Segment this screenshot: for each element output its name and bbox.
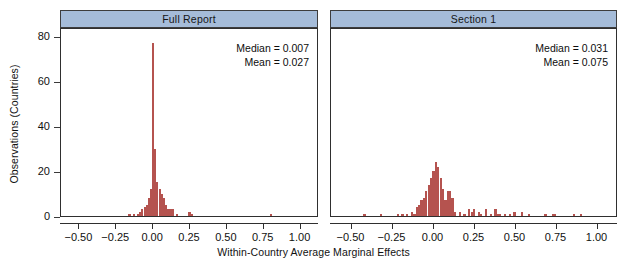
histogram-bar xyxy=(401,214,403,216)
histogram-bar xyxy=(504,214,506,216)
plot-box: Median = 0.031Mean = 0.075 xyxy=(330,28,617,217)
histogram-bar xyxy=(191,214,193,216)
histogram-bar xyxy=(499,214,501,216)
histogram-bar xyxy=(509,214,511,216)
plot-box: Median = 0.007Mean = 0.027 xyxy=(60,28,318,217)
histogram-bar xyxy=(480,214,482,216)
histogram-bar xyxy=(363,214,365,216)
x-axis-tick-label: 0.00 xyxy=(141,231,162,243)
x-axis-tick-label: −0.25 xyxy=(378,231,406,243)
x-axis-tick-mark xyxy=(433,223,434,229)
histogram-bar xyxy=(397,214,399,216)
x-axis-tick-mark xyxy=(263,223,264,229)
histogram-bar xyxy=(459,212,461,217)
x-axis-tick-mark xyxy=(189,223,190,229)
y-axis-tick-label: 80 xyxy=(24,30,50,42)
x-axis-tick-label: 0.25 xyxy=(178,231,199,243)
stat-median: Median = 0.031 xyxy=(535,41,608,55)
x-axis-tick-mark xyxy=(474,223,475,229)
panel-stats-annotation: Median = 0.007Mean = 0.027 xyxy=(236,41,309,69)
x-axis-tick-label: −0.25 xyxy=(101,231,129,243)
x-axis-tick-mark xyxy=(351,223,352,229)
y-axis-tick-label: 60 xyxy=(24,75,50,87)
histogram-bar xyxy=(128,214,130,216)
x-axis-tick-mark xyxy=(115,223,116,229)
y-axis-tick-label: 0 xyxy=(24,210,50,222)
y-axis-tick-mark xyxy=(54,217,60,218)
panel-title-strip: Section 1 xyxy=(330,10,617,28)
x-axis-tick-label: 0.25 xyxy=(463,231,484,243)
panel-title-label: Section 1 xyxy=(451,13,497,25)
y-axis-tick-label: 20 xyxy=(24,165,50,177)
x-axis-tick-mark xyxy=(556,223,557,229)
histogram-bar xyxy=(580,214,582,216)
histogram-bar xyxy=(528,214,530,216)
histogram-bar xyxy=(513,212,515,217)
x-axis-tick-mark xyxy=(515,223,516,229)
histogram-bar xyxy=(490,214,492,216)
histogram-bar xyxy=(176,214,178,216)
x-axis-tick-label: 1.00 xyxy=(586,231,607,243)
x-axis-tick-label: 0.75 xyxy=(252,231,273,243)
y-axis-tick-label: 40 xyxy=(24,120,50,132)
panel-title-strip: Full Report xyxy=(60,10,318,28)
x-axis-tick-label: 1.00 xyxy=(289,231,310,243)
histogram-bar xyxy=(171,209,173,216)
histogram-bar xyxy=(485,209,487,216)
histogram-bar xyxy=(454,212,456,217)
x-axis-tick-label: 0.50 xyxy=(504,231,525,243)
stat-median: Median = 0.007 xyxy=(236,41,309,55)
histogram-bar xyxy=(380,214,382,216)
histogram-bar xyxy=(554,214,556,216)
histogram-bar xyxy=(270,214,272,216)
histogram-bar xyxy=(544,214,546,216)
y-axis-title: Observations (Countries) xyxy=(8,24,20,224)
stat-mean: Mean = 0.075 xyxy=(535,55,608,69)
histogram-bar xyxy=(521,212,523,217)
x-axis-tick-mark xyxy=(78,223,79,229)
x-axis-tick-mark xyxy=(152,223,153,229)
histogram-bar xyxy=(406,214,408,216)
histogram-bar xyxy=(473,209,475,216)
panel-stats-annotation: Median = 0.031Mean = 0.075 xyxy=(535,41,608,69)
histogram-bar xyxy=(573,214,575,216)
stat-mean: Mean = 0.027 xyxy=(236,55,309,69)
panel-title-label: Full Report xyxy=(162,13,216,25)
x-axis-title: Within-Country Average Marginal Effects xyxy=(0,246,627,258)
x-axis-tick-label: −0.50 xyxy=(65,231,93,243)
x-axis-tick-label: 0.75 xyxy=(545,231,566,243)
x-axis-tick-mark xyxy=(597,223,598,229)
x-axis-tick-mark xyxy=(226,223,227,229)
x-axis-tick-mark xyxy=(392,223,393,229)
histogram-bar xyxy=(463,214,465,216)
y-axis: 020406080 xyxy=(22,0,60,273)
x-axis-tick-label: 0.50 xyxy=(215,231,236,243)
histogram-bar xyxy=(133,214,135,216)
x-axis-tick-label: 0.00 xyxy=(422,231,443,243)
histogram-figure: Observations (Countries) 020406080 Full … xyxy=(0,0,627,273)
x-axis-tick-mark xyxy=(300,223,301,229)
x-axis-tick-label: −0.50 xyxy=(337,231,365,243)
